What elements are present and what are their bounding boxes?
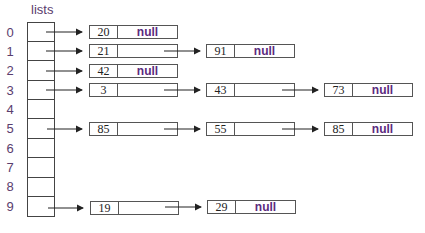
pointer-arrows: [0, 0, 425, 233]
